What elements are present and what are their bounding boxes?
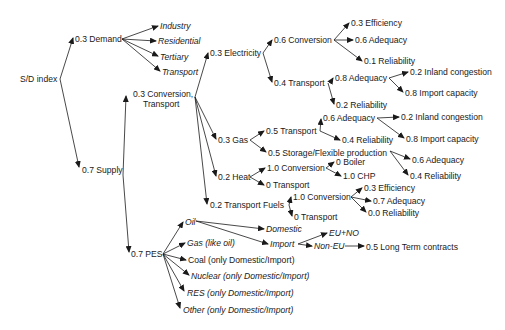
res-node: RES (only Domestic/Import) bbox=[187, 288, 294, 298]
gas-st-reliability-node: 0.4 Reliability bbox=[410, 171, 461, 181]
el-transport-node: 0.4 Transport bbox=[274, 78, 325, 88]
domestic-node: Domestic bbox=[266, 224, 302, 234]
gas-tr-import-capacity-node: 0.8 Import capacity bbox=[406, 134, 479, 144]
residential-node: Residential bbox=[158, 36, 201, 46]
transport-fuels-node: 0.2 Transport Fuels bbox=[210, 200, 284, 210]
gas-transport-node: 0.5 Transport bbox=[266, 126, 317, 136]
conversion-transport-node-line1: 0.3 Conversion, bbox=[133, 89, 193, 99]
el-tr-inland-congestion-node: 0.2 Inland congestion bbox=[410, 67, 492, 77]
el-tr-adequacy-node: 0.8 Adequacy bbox=[335, 73, 387, 83]
other-node: Other (only Domestic/Import) bbox=[183, 305, 293, 315]
demand-node: 0.3 Demand bbox=[75, 34, 122, 44]
supply-node: 0.7 Supply bbox=[82, 165, 123, 175]
el-tr-import-capacity-node: 0.8 Import capacity bbox=[405, 88, 478, 98]
gas-tr-inland-congestion-node: 0.2 Inland congestion bbox=[401, 112, 483, 122]
industry-node: Industry bbox=[160, 21, 191, 31]
tf-efficiency-node: 0.3 Efficiency bbox=[364, 183, 415, 193]
sd-index-tree-diagram: S/D index 0.3 Demand Industry Residentia… bbox=[0, 0, 505, 330]
el-conv-efficiency-node: 0.3 Efficiency bbox=[351, 18, 402, 28]
electricity-node: 0.3 Electricity bbox=[210, 48, 261, 58]
import-node: Import bbox=[270, 239, 294, 249]
gas-storage-node: 0.5 Storage/Flexible production bbox=[268, 148, 387, 158]
eu-no-node: EU+NO bbox=[329, 228, 359, 238]
heat-chp-node: 1.0 CHP bbox=[343, 171, 375, 181]
demand-transport-node: Transport bbox=[162, 67, 198, 77]
gas-st-adequacy-node: 0.6 Adequacy bbox=[412, 155, 464, 165]
heat-node: 0.2 Heat bbox=[218, 172, 251, 182]
el-tr-reliability-node: 0.2 Reliability bbox=[336, 100, 387, 110]
heat-boiler-node: 0 Boiler bbox=[336, 157, 365, 167]
conversion-transport-node-line2: Transport bbox=[143, 99, 179, 109]
el-conversion-node: 0.6 Conversion bbox=[274, 35, 332, 45]
long-term-contracts-node: 0.5 Long Term contracts bbox=[366, 242, 458, 252]
heat-conversion-node: 1.0 Conversion bbox=[267, 163, 325, 173]
tf-reliability-node: 0.0 Reliability bbox=[368, 208, 419, 218]
tf-transport-node: 0 Transport bbox=[294, 212, 337, 222]
tf-adequacy-node: 0.7 Adequacy bbox=[373, 196, 425, 206]
gas-node: 0.3 Gas bbox=[218, 135, 248, 145]
non-eu-node: Non-EU bbox=[314, 241, 345, 251]
oil-node: Oil bbox=[185, 217, 196, 227]
coal-node: Coal (only Domestic/Import) bbox=[188, 255, 295, 265]
tertiary-node: Tertiary bbox=[160, 52, 188, 62]
gas-tr-adequacy-node: 0.6 Adequacy bbox=[323, 113, 375, 123]
el-conv-reliability-node: 0.1 Reliability bbox=[364, 56, 415, 66]
heat-transport-node: 0 Transport bbox=[266, 180, 309, 190]
gas-tr-reliability-node: 0.4 Reliability bbox=[342, 135, 393, 145]
root-node: S/D index bbox=[20, 74, 57, 84]
nuclear-node: Nuclear (only Domestic/Import) bbox=[191, 271, 309, 281]
gas-pes-node: Gas (like oil) bbox=[187, 238, 235, 248]
tf-conversion-node: 1.0 Conversion bbox=[293, 192, 351, 202]
pes-node: 0.7 PES bbox=[131, 249, 163, 259]
el-conv-adequacy-node: 0.6 Adequacy bbox=[355, 35, 407, 45]
